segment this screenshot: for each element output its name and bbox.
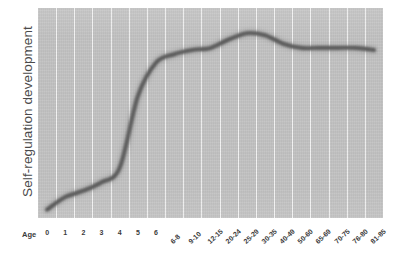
x-tick-label: 50-60 bbox=[297, 228, 315, 245]
plot-area bbox=[38, 8, 383, 218]
y-axis-title: Self-regulation development bbox=[20, 7, 35, 217]
x-tick-label: 65-69 bbox=[315, 228, 333, 245]
x-tick-label: 20-24 bbox=[224, 228, 242, 245]
x-axis-title: Age bbox=[22, 230, 36, 239]
x-tick-label: 2 bbox=[81, 229, 85, 236]
x-tick-label: 1 bbox=[63, 229, 67, 236]
development-curve bbox=[38, 8, 383, 218]
x-tick-label: 6 bbox=[154, 229, 158, 236]
x-tick-label: 40-49 bbox=[278, 228, 296, 245]
x-tick-label: 81-85 bbox=[369, 228, 387, 245]
curve-halo bbox=[47, 33, 374, 210]
x-tick-label: 12-15 bbox=[206, 228, 224, 245]
x-axis: Age 01234566-89-1012-1520-2425-2930-3540… bbox=[0, 218, 407, 256]
self-regulation-development-chart: Self-regulation development Age 01234566… bbox=[0, 0, 407, 256]
x-tick-label: 4 bbox=[118, 229, 122, 236]
x-tick-label: 70-75 bbox=[333, 228, 351, 245]
x-tick-label: 6-8 bbox=[169, 233, 181, 245]
x-tick-label: 3 bbox=[100, 229, 104, 236]
x-tick-label: 5 bbox=[136, 229, 140, 236]
x-tick-label: 25-29 bbox=[242, 228, 260, 245]
x-tick-label: 30-35 bbox=[260, 228, 278, 245]
x-tick-label: 0 bbox=[45, 229, 49, 236]
x-tick-label: 9-10 bbox=[188, 230, 203, 245]
x-tick-label: 76-80 bbox=[351, 228, 369, 245]
